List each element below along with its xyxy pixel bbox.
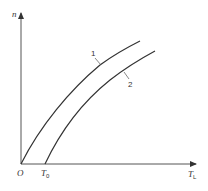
y-axis-label: n <box>12 9 17 19</box>
curve-1 <box>21 41 140 164</box>
t0-label: T0 <box>41 168 50 179</box>
x-axis-label-sub: L <box>193 174 197 180</box>
t0-label-sub: 0 <box>46 173 50 179</box>
curve-1-label: 1 <box>91 49 96 58</box>
curve-2 <box>45 51 155 164</box>
x-axis-label: TL <box>188 169 197 180</box>
curve-2-leader <box>124 72 129 79</box>
curve-1-leader <box>95 58 101 65</box>
origin-label: O <box>17 168 24 178</box>
characteristic-diagram: n O T0 TL 1 2 <box>0 0 208 191</box>
curve-2-label: 2 <box>128 80 133 89</box>
